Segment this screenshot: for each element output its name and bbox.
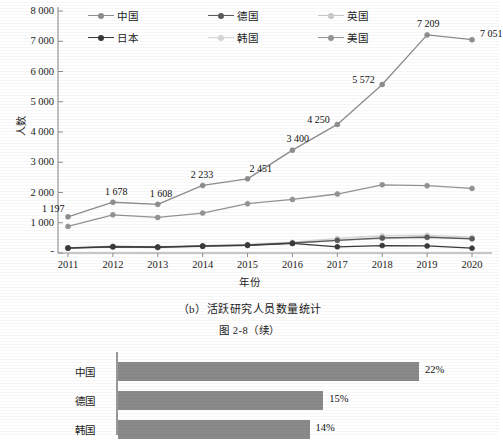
bar-fill bbox=[118, 362, 419, 381]
bar-row: 韩国14% bbox=[0, 418, 499, 443]
data-label: 1 678 bbox=[105, 187, 128, 197]
data-label: 1 197 bbox=[42, 204, 65, 214]
legend-item-美国: 美国 bbox=[318, 30, 368, 45]
legend-swatch-icon bbox=[318, 11, 344, 20]
series-日本 bbox=[66, 241, 475, 251]
line-chart: 人数 8 0007 0006 0005 0004 0003 0002 0001 … bbox=[0, 0, 499, 292]
data-label: 7 051 bbox=[480, 29, 503, 39]
data-label: 4 250 bbox=[307, 115, 330, 125]
bar-value-label: 14% bbox=[316, 422, 335, 433]
bar bbox=[118, 391, 323, 410]
data-label: 7 209 bbox=[417, 19, 440, 29]
data-label: 5 572 bbox=[352, 75, 375, 85]
legend-item-日本: 日本 bbox=[88, 30, 138, 45]
legend-swatch-icon bbox=[208, 11, 234, 20]
bar bbox=[118, 362, 419, 381]
bar-value-label: 22% bbox=[425, 364, 444, 375]
bar-row: 德国15% bbox=[0, 389, 499, 417]
bar bbox=[118, 420, 310, 439]
bar-fill bbox=[118, 420, 310, 439]
bar-row: 中国22% bbox=[0, 360, 499, 388]
legend-label: 德国 bbox=[237, 8, 258, 23]
legend-label: 日本 bbox=[117, 30, 138, 45]
legend-swatch-icon bbox=[318, 33, 344, 42]
bar-value-label: 15% bbox=[329, 393, 348, 404]
legend-item-中国: 中国 bbox=[88, 8, 138, 23]
subfigure-caption: （b）活跃研究人员数量统计 bbox=[0, 300, 499, 316]
legend-item-韩国: 韩国 bbox=[208, 30, 258, 45]
legend-swatch-icon bbox=[88, 33, 114, 42]
bar-category-label: 德国 bbox=[62, 393, 108, 408]
legend-swatch-icon bbox=[208, 33, 234, 42]
legend-label: 美国 bbox=[347, 30, 368, 45]
bar-category-label: 韩国 bbox=[62, 422, 108, 437]
bar-chart: 中国22%德国15%韩国14% bbox=[0, 352, 499, 435]
series-德国 bbox=[66, 235, 475, 251]
legend-label: 韩国 bbox=[237, 30, 258, 45]
figure-number-caption: 图 2-8（续） bbox=[0, 322, 499, 337]
legend-label: 英国 bbox=[347, 8, 368, 23]
bar-fill bbox=[118, 391, 323, 410]
legend-swatch-icon bbox=[88, 11, 114, 20]
legend-label: 中国 bbox=[117, 8, 138, 23]
data-label: 1 608 bbox=[150, 189, 173, 199]
legend-item-英国: 英国 bbox=[318, 8, 368, 23]
legend-item-德国: 德国 bbox=[208, 8, 258, 23]
data-label: 2 233 bbox=[191, 170, 214, 180]
bar-category-label: 中国 bbox=[62, 364, 108, 379]
data-label: 2 451 bbox=[250, 164, 273, 174]
data-label: 3 400 bbox=[286, 134, 309, 144]
